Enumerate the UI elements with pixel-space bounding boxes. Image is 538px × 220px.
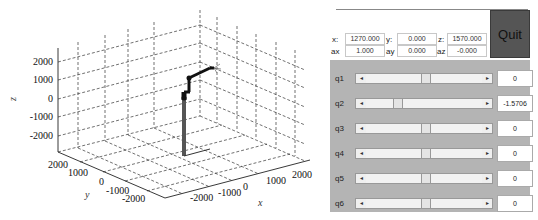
ay-field[interactable]: 0.000 (397, 45, 437, 57)
arrow-right-icon[interactable]: ▸ (482, 99, 492, 108)
svg-text:-1000: -1000 (218, 187, 241, 198)
plot-axes-svg: 2000 1000 0 -1000 -2000 z 2000 1000 0 -1… (0, 0, 330, 220)
robot-arm (182, 64, 222, 156)
q5-slider[interactable]: ◂ ▸ (355, 173, 493, 184)
joint-row-q5: q5 ◂ ▸ 0 (335, 172, 535, 186)
svg-text:0: 0 (99, 176, 104, 187)
slider-track[interactable] (366, 174, 482, 183)
svg-text:2000: 2000 (48, 159, 68, 170)
svg-text:-2000: -2000 (30, 130, 53, 141)
q2-slider[interactable]: ◂ ▸ (355, 98, 493, 109)
svg-text:1000: 1000 (68, 167, 88, 178)
arrow-right-icon[interactable]: ▸ (482, 74, 492, 83)
arrow-left-icon[interactable]: ◂ (356, 74, 366, 83)
arrow-right-icon[interactable]: ▸ (482, 174, 492, 183)
q4-slider[interactable]: ◂ ▸ (355, 148, 493, 159)
slider-thumb[interactable] (393, 99, 403, 108)
z-axis-label: z (7, 97, 18, 102)
arrow-left-icon[interactable]: ◂ (356, 149, 366, 158)
slider-thumb[interactable] (421, 149, 431, 158)
slider-thumb[interactable] (421, 199, 431, 208)
svg-text:0: 0 (243, 181, 248, 192)
x-axis-label: x (257, 197, 263, 208)
z-field[interactable]: 1570.000 (447, 33, 487, 45)
svg-text:1000: 1000 (33, 74, 53, 85)
z-ticks: 2000 1000 0 -1000 -2000 (30, 56, 53, 141)
grid-lines (58, 10, 305, 194)
joint-label: q4 (335, 149, 349, 158)
y-ticks: 2000 1000 0 -1000 -2000 (48, 159, 145, 204)
joint-row-q4: q4 ◂ ▸ 0 (335, 147, 535, 161)
svg-text:-1000: -1000 (30, 111, 53, 122)
svg-text:0: 0 (48, 93, 53, 104)
slider-track[interactable] (366, 199, 482, 208)
joint-label: q3 (335, 124, 349, 133)
slider-track[interactable] (366, 99, 482, 108)
arrow-left-icon[interactable]: ◂ (356, 124, 366, 133)
ay-label: ay (386, 47, 394, 56)
q4-value-field[interactable]: 0 (497, 145, 533, 162)
svg-text:1000: 1000 (266, 175, 286, 186)
slider-thumb[interactable] (421, 124, 431, 133)
robot-3d-plot[interactable]: 2000 1000 0 -1000 -2000 z 2000 1000 0 -1… (0, 0, 330, 220)
ax-label: ax (331, 47, 339, 56)
joint-label: q2 (335, 99, 349, 108)
arrow-left-icon[interactable]: ◂ (356, 199, 366, 208)
x-label: x: (332, 35, 338, 44)
arrow-right-icon[interactable]: ▸ (482, 149, 492, 158)
end-effector-frame-icon (214, 64, 221, 73)
joint-row-q6: q6 ◂ ▸ 0 (335, 197, 535, 211)
svg-text:2000: 2000 (292, 169, 312, 180)
arrow-right-icon[interactable]: ▸ (482, 199, 492, 208)
q3-value-field[interactable]: 0 (497, 120, 533, 137)
z-label: z: (438, 35, 444, 44)
svg-text:-2000: -2000 (122, 193, 145, 204)
q5-value-field[interactable]: 0 (497, 170, 533, 187)
ax-field[interactable]: 1.000 (345, 45, 385, 57)
arrow-left-icon[interactable]: ◂ (356, 174, 366, 183)
slider-thumb[interactable] (421, 74, 431, 83)
joint-row-q2: q2 ◂ ▸ -1.5706 (335, 97, 535, 111)
slider-track[interactable] (366, 124, 482, 133)
y-axis-label: y (84, 189, 90, 200)
joint-label: q6 (335, 199, 349, 208)
joint-label: q1 (335, 74, 349, 83)
y-field[interactable]: 0.000 (397, 33, 437, 45)
joint-label: q5 (335, 174, 349, 183)
joint-row-q3: q3 ◂ ▸ 0 (335, 122, 535, 136)
q1-value-field[interactable]: 0 (497, 70, 533, 87)
q1-slider[interactable]: ◂ ▸ (355, 73, 493, 84)
svg-text:-2000: -2000 (190, 192, 213, 203)
q3-slider[interactable]: ◂ ▸ (355, 123, 493, 134)
arrow-left-icon[interactable]: ◂ (356, 99, 366, 108)
slider-track[interactable] (366, 149, 482, 158)
az-label: az (437, 47, 445, 56)
quit-button[interactable]: Quit (490, 10, 530, 58)
svg-text:2000: 2000 (33, 56, 53, 67)
slider-thumb[interactable] (421, 174, 431, 183)
joint-row-q1: q1 ◂ ▸ 0 (335, 72, 535, 86)
slider-track[interactable] (366, 74, 482, 83)
x-field[interactable]: 1270.000 (345, 33, 385, 45)
q6-value-field[interactable]: 0 (497, 195, 533, 212)
az-field[interactable]: -0.000 (447, 45, 487, 57)
y-label: y: (386, 35, 392, 44)
q2-value-field[interactable]: -1.5706 (497, 95, 533, 112)
arrow-right-icon[interactable]: ▸ (482, 124, 492, 133)
q6-slider[interactable]: ◂ ▸ (355, 198, 493, 209)
